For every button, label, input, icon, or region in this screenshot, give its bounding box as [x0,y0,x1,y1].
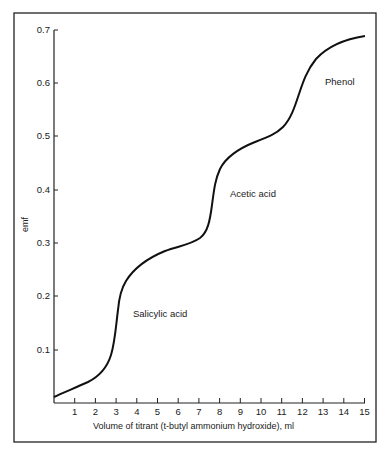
x-tick-label: 13 [313,406,333,417]
x-tick-label: 4 [127,406,147,417]
x-tick-label: 12 [292,406,312,417]
outer-frame [14,13,376,442]
x-tick-label: 9 [230,406,250,417]
x-tick-label: 10 [251,406,271,417]
annotation-salicylic-acid: Salicylic acid [133,308,187,319]
x-tick-label: 11 [272,406,292,417]
annotation-phenol: Phenol [325,76,355,87]
x-tick-label: 15 [355,406,375,417]
y-tick-label: 0.6 [20,77,50,88]
x-tick-label: 2 [85,406,105,417]
x-tick-label: 5 [148,406,168,417]
y-tick-label: 0.4 [20,184,50,195]
x-tick-label: 1 [65,406,85,417]
y-axis-label: emf [20,217,30,232]
x-tick-marks [75,398,365,403]
annotation-acetic-acid: Acetic acid [230,188,276,199]
x-tick-label: 14 [334,406,354,417]
y-tick-label: 0.5 [20,130,50,141]
x-tick-label: 8 [210,406,230,417]
x-tick-label: 7 [189,406,209,417]
y-tick-label: 0.7 [20,24,50,35]
titration-curve [54,36,365,397]
x-axis-label: Volume of titrant (t-butyl ammonium hydr… [93,421,294,431]
chart-canvas [0,0,388,457]
x-tick-label: 3 [106,406,126,417]
y-tick-label: 0.3 [20,237,50,248]
x-tick-label: 6 [168,406,188,417]
y-tick-label: 0.2 [20,290,50,301]
y-tick-label: 0.1 [20,344,50,355]
